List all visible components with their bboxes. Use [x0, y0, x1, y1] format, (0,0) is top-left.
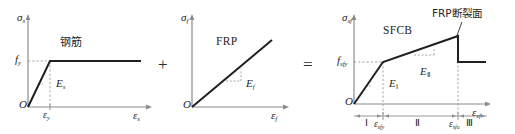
sfcb-region3-right-cap: [481, 114, 485, 118]
sfcb-origin-label: O: [345, 96, 353, 107]
sfcb-y-axis-arrow: [352, 14, 357, 20]
sfcb-callout-label: FRP断裂面: [432, 8, 482, 19]
sfcb-constitutive-figure: σs εs O fy εy Es 钢筋 + σf εf O Ef FRP =: [0, 0, 515, 134]
sfcb-region3-left-cap: [460, 114, 464, 118]
sfcb-region1-right-cap: [377, 114, 381, 118]
sfcb-chart-graphics: [0, 0, 515, 134]
sfcb-region2-right-cap: [452, 114, 456, 118]
sfcb-region-2-label: Ⅱ: [415, 119, 420, 129]
sfcb-epssfy-label: εsfy: [374, 120, 384, 130]
sfcb-region1-left-cap: [356, 114, 360, 118]
sfcb-slope1-label: EⅠ: [389, 78, 398, 89]
sfcb-region-1-label: Ⅰ: [365, 119, 368, 129]
sfcb-y-axis-label: σsf: [342, 12, 352, 23]
sfcb-epssfu-label: εsfu: [449, 120, 460, 130]
sfcb-legend-label: SFCB: [383, 25, 412, 37]
sfcb-fsfy-label: fsfy: [337, 55, 348, 66]
sfcb-slope2-label: EⅡ: [420, 66, 430, 77]
sfcb-region2-left-cap: [385, 114, 389, 118]
sfcb-region-3-label: Ⅲ: [466, 119, 473, 129]
sfcb-x-axis-arrow: [485, 102, 491, 107]
sfcb-x-axis-label: εsf: [472, 107, 481, 118]
